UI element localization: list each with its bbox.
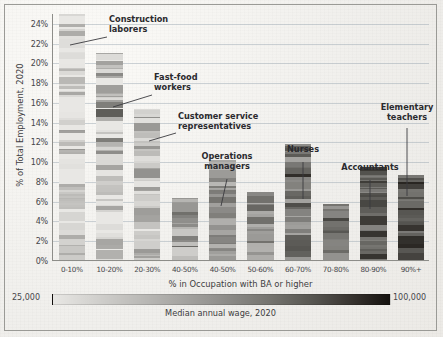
- y-axis-tick: 8%: [36, 177, 48, 186]
- bar-segment: [134, 123, 160, 131]
- bar-segment: [247, 217, 273, 225]
- y-axis-tick: 22%: [31, 39, 48, 48]
- annotation-customer-service-representatives: Customer service representatives: [178, 112, 258, 131]
- x-axis-tick: 50-60%: [247, 265, 273, 274]
- bar-segment: [323, 253, 349, 260]
- x-axis-tick: 40-50%: [210, 265, 236, 274]
- bar-segment: [247, 255, 273, 260]
- bar-10-20-[interactable]: [96, 53, 122, 260]
- bar-segment: [398, 225, 424, 232]
- y-axis-tick: 6%: [36, 197, 48, 206]
- bar-segment: [172, 247, 198, 255]
- x-axis-tick: 10-20%: [97, 265, 123, 274]
- bar-segment: [134, 169, 160, 178]
- bar-segment: [360, 200, 386, 207]
- gridline: [53, 44, 429, 45]
- y-axis-tick: 14%: [31, 118, 48, 127]
- bar-segment: [96, 85, 122, 93]
- bar-90-[interactable]: [398, 175, 424, 260]
- bar-40-50-[interactable]: [209, 160, 235, 260]
- bar-segment: [134, 208, 160, 215]
- bar-40-50-[interactable]: [172, 198, 198, 260]
- y-axis-label: % of Total Employment, 2020: [15, 25, 25, 225]
- bar-segment: [247, 234, 273, 242]
- stacked-bar-chart: % of Total Employment, 2020 0%2%4%6%8%10…: [0, 0, 443, 337]
- colorbar-max-label: 100,000: [393, 293, 426, 302]
- annotation-fast-food-workers: Fast-food workers: [154, 73, 198, 92]
- bar-segment: [59, 103, 85, 110]
- bar-segment: [209, 256, 235, 260]
- bar-segment: [172, 229, 198, 236]
- bar-70-80-[interactable]: [323, 204, 349, 260]
- bar-segment: [96, 217, 122, 224]
- x-axis-tick: 40-50%: [172, 265, 198, 274]
- colorbar-min-label: 25,000: [12, 293, 40, 302]
- y-axis-tick: 18%: [31, 79, 48, 88]
- bar-80-90-[interactable]: [360, 167, 386, 260]
- annotation-elementary-teachers: Elementary teachers: [375, 103, 439, 122]
- bar-segment: [96, 250, 122, 259]
- y-axis-tick: 10%: [31, 158, 48, 167]
- bar-segment: [59, 169, 85, 176]
- annotation-nurses: Nurses: [276, 145, 330, 155]
- bar-segment: [96, 109, 122, 117]
- bar-0-10-[interactable]: [59, 13, 85, 260]
- y-axis-tick: 20%: [31, 59, 48, 68]
- bar-segment: [59, 177, 85, 184]
- bar-segment: [59, 246, 85, 253]
- bar-segment: [134, 258, 160, 260]
- bar-segment: [172, 203, 198, 211]
- colorbar-caption: Median annual wage, 2020: [4, 308, 437, 318]
- colorbar-gradient: [52, 294, 391, 305]
- plot-area: 0%2%4%6%8%10%12%14%16%18%20%22%24%0-10%1…: [52, 14, 429, 261]
- annotation-operations-managers: Operations managers: [189, 152, 265, 171]
- wage-colorbar-legend: 25,000 100,000 Median annual wage, 2020: [4, 292, 437, 326]
- annotation-accountants: Accountants: [336, 163, 404, 173]
- x-axis-tick: 0-10%: [61, 265, 83, 274]
- y-axis-tick: 4%: [36, 217, 48, 226]
- bar-segment: [59, 212, 85, 221]
- bar-50-60-[interactable]: [247, 192, 273, 260]
- x-axis-tick: 90%+: [401, 265, 422, 274]
- bar-segment: [134, 241, 160, 249]
- bar-segment: [360, 259, 386, 260]
- x-axis-tick: 60-70%: [285, 265, 311, 274]
- annotation-construction-laborers: Construction laborers: [109, 15, 168, 34]
- x-axis-tick: 80-90%: [360, 265, 386, 274]
- x-axis-tick: 70-80%: [323, 265, 349, 274]
- bar-segment: [59, 256, 85, 260]
- x-axis-tick: 20-30%: [134, 265, 160, 274]
- y-axis-tick: 0%: [36, 257, 48, 266]
- bar-segment: [96, 259, 122, 260]
- y-axis-tick: 12%: [31, 138, 48, 147]
- x-axis-label: % in Occupation with BA or higher: [52, 279, 429, 289]
- bar-segment: [360, 216, 386, 224]
- y-axis-tick: 24%: [31, 19, 48, 28]
- bar-segment: [398, 253, 424, 260]
- bar-60-70-[interactable]: [285, 143, 311, 260]
- bar-segment: [172, 256, 198, 260]
- bar-segment: [134, 222, 160, 229]
- y-axis-tick: 2%: [36, 237, 48, 246]
- bar-segment: [247, 196, 273, 203]
- y-axis-tick: 16%: [31, 98, 48, 107]
- bar-segment: [96, 78, 122, 85]
- bar-segment: [59, 39, 85, 48]
- bar-segment: [285, 209, 311, 216]
- bar-segment: [285, 257, 311, 260]
- bar-20-30-[interactable]: [134, 109, 160, 260]
